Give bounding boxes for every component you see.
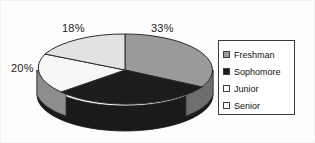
pie-chart-figure: 18% 33% 20% 29% Freshman Sophomore Junio… [0,0,315,143]
legend-swatch-senior [223,102,230,109]
slice-label-senior: 18% [62,22,85,34]
slice-label-sophomore: 29% [106,118,129,130]
legend-item-sophomore[interactable]: Sophomore [223,63,294,80]
legend-label-freshman: Freshman [234,50,275,60]
chart-plot-area: 18% 33% 20% 29% [0,0,215,143]
legend-label-junior: Junior [234,84,259,94]
slice-label-junior: 20% [11,62,34,74]
legend-swatch-junior [223,85,230,92]
chart-legend: Freshman Sophomore Junior Senior [218,40,295,115]
legend-swatch-freshman [223,51,230,58]
legend-label-sophomore: Sophomore [234,67,281,77]
legend-item-junior[interactable]: Junior [223,80,294,97]
legend-item-senior[interactable]: Senior [223,97,294,114]
legend-item-freshman[interactable]: Freshman [223,46,294,63]
pie-top-face [38,34,212,104]
slice-label-freshman: 33% [151,22,174,34]
legend-label-senior: Senior [234,101,260,111]
legend-swatch-sophomore [223,68,230,75]
